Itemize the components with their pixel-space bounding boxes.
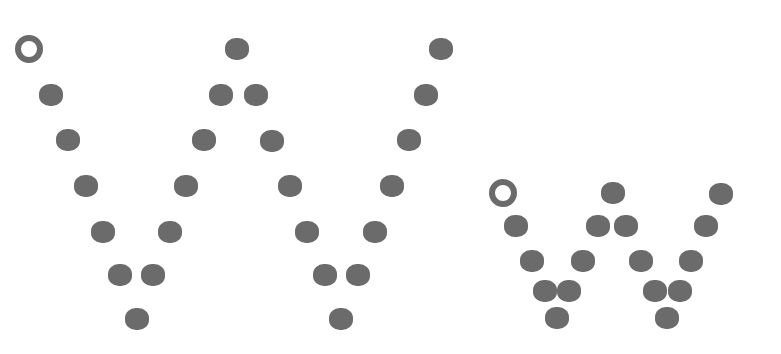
dot-icon [278,175,302,197]
dot-icon [571,250,595,272]
dot-icon [209,84,233,106]
dot-icon [141,264,165,286]
dot-icon [545,307,569,329]
dot-icon [520,250,544,272]
dot-icon [643,280,667,302]
dot-icon [414,84,438,106]
dot-icon [225,38,249,60]
dot-icon [533,280,557,302]
dot-icon [363,221,387,243]
start-ring-icon [15,35,43,63]
dot-icon [313,264,337,286]
dot-icon [244,84,268,106]
dot-icon [91,221,115,243]
dot-icon [56,129,80,151]
dot-icon [295,221,319,243]
dot-icon [329,308,353,330]
dot-icon [158,221,182,243]
dot-icon [74,175,98,197]
dot-letter-canvas [0,0,781,354]
dot-icon [39,84,63,106]
dot-icon [346,264,370,286]
dot-icon [380,175,404,197]
dot-icon [709,183,733,205]
dot-icon [679,250,703,272]
dot-icon [629,250,653,272]
dot-icon [192,129,216,151]
dot-icon [429,38,453,60]
dot-icon [668,280,692,302]
dot-icon [504,215,528,237]
dot-icon [174,175,198,197]
dot-icon [108,264,132,286]
dot-icon [125,308,149,330]
dot-icon [397,129,421,151]
dot-icon [694,215,718,237]
dot-icon [260,130,284,152]
dot-icon [655,307,679,329]
dot-icon [601,182,625,204]
start-ring-icon [489,179,517,207]
dot-icon [586,215,610,237]
dot-icon [557,280,581,302]
dot-icon [614,215,638,237]
